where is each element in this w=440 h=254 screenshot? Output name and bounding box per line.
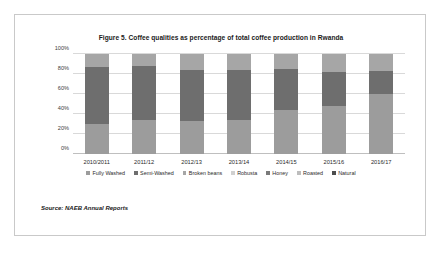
bar-segment[interactable]	[274, 69, 298, 110]
legend-swatch-icon	[297, 171, 301, 175]
bar-segment[interactable]	[180, 54, 204, 70]
bar-stack[interactable]	[227, 54, 251, 154]
bar-segment[interactable]	[322, 72, 346, 106]
legend-label: Semi-Washed	[140, 170, 174, 176]
y-axis-tick-label: 60%	[58, 85, 69, 91]
document-page: Figure 5. Coffee qualities as percentage…	[14, 14, 426, 236]
legend-item[interactable]: Robusta	[231, 170, 257, 176]
y-axis-tick-label: 40%	[58, 105, 69, 111]
bar-stack[interactable]	[274, 54, 298, 154]
bar-segment[interactable]	[85, 124, 109, 154]
chart-title: Figure 5. Coffee qualities as percentage…	[27, 34, 415, 41]
bar-group[interactable]: 2016/17	[358, 54, 405, 154]
bar-segment[interactable]	[227, 54, 251, 70]
y-axis-tick-label: 0%	[61, 145, 69, 151]
x-axis-tick-label: 2010/2011	[83, 159, 109, 165]
legend-item[interactable]: Semi-Washed	[134, 170, 174, 176]
source-note: Source: NAEB Annual Reports	[41, 205, 128, 211]
bar-stack[interactable]	[369, 54, 393, 154]
legend-item[interactable]: Roasted	[297, 170, 323, 176]
bar-stack[interactable]	[85, 54, 109, 154]
legend-label: Broken beans	[189, 170, 222, 176]
legend-swatch-icon	[332, 171, 336, 175]
x-axis-tick-label: 2016/17	[371, 159, 392, 165]
legend-label: Robusta	[237, 170, 257, 176]
legend-item[interactable]: Broken beans	[183, 170, 222, 176]
bar-group[interactable]: 2014/15	[263, 54, 310, 154]
bar-segment[interactable]	[85, 67, 109, 124]
y-axis-tick-label: 80%	[58, 65, 69, 71]
bar-stack[interactable]	[322, 54, 346, 154]
bar-series-group: 2010/20112011/122012/132013/142014/15201…	[73, 54, 405, 154]
legend-swatch-icon	[134, 171, 138, 175]
bar-segment[interactable]	[85, 54, 109, 67]
bar-group[interactable]: 2010/2011	[73, 54, 120, 154]
legend-label: Roasted	[303, 170, 323, 176]
bar-group[interactable]: 2015/16	[310, 54, 357, 154]
bar-segment[interactable]	[132, 66, 156, 120]
x-axis-tick-label: 2013/14	[229, 159, 250, 165]
x-axis-tick-label: 2011/12	[134, 159, 154, 165]
chart: Figure 5. Coffee qualities as percentage…	[27, 26, 415, 192]
y-axis-tick-label: 20%	[58, 125, 69, 131]
y-axis-tick-label: 100%	[55, 45, 69, 51]
bar-segment[interactable]	[227, 120, 251, 154]
bar-segment[interactable]	[369, 71, 393, 94]
bar-segment[interactable]	[274, 54, 298, 69]
bar-segment[interactable]	[322, 54, 346, 72]
bar-segment[interactable]	[132, 54, 156, 66]
legend-item[interactable]: Honey	[266, 170, 288, 176]
bar-stack[interactable]	[180, 54, 204, 154]
legend-label: Honey	[272, 170, 288, 176]
legend-swatch-icon	[183, 171, 187, 175]
legend-swatch-icon	[266, 171, 270, 175]
bar-group[interactable]: 2012/13	[168, 54, 215, 154]
bar-segment[interactable]	[132, 120, 156, 154]
legend-label: Natural	[338, 170, 355, 176]
legend-item[interactable]: Natural	[332, 170, 355, 176]
bar-segment[interactable]	[274, 110, 298, 154]
x-axis-tick-label: 2012/13	[181, 159, 202, 165]
x-axis-tick-label: 2015/16	[324, 159, 345, 165]
legend-swatch-icon	[231, 171, 235, 175]
bar-segment[interactable]	[180, 70, 204, 121]
bar-segment[interactable]	[180, 121, 204, 154]
legend-label: Fully Washed	[93, 170, 125, 176]
bar-segment[interactable]	[369, 94, 393, 154]
bar-group[interactable]: 2013/14	[215, 54, 262, 154]
bar-segment[interactable]	[369, 54, 393, 71]
bar-group[interactable]: 2011/12	[120, 54, 167, 154]
legend-swatch-icon	[86, 171, 90, 175]
bar-segment[interactable]	[227, 70, 251, 120]
bar-stack[interactable]	[132, 54, 156, 154]
chart-legend: Fully WashedSemi-WashedBroken beansRobus…	[27, 170, 415, 176]
x-axis-tick-label: 2014/15	[276, 159, 297, 165]
legend-item[interactable]: Fully Washed	[86, 170, 125, 176]
bar-segment[interactable]	[322, 106, 346, 154]
plot-area: 0%20%40%60%80%100% 2010/20112011/122012/…	[73, 54, 405, 154]
